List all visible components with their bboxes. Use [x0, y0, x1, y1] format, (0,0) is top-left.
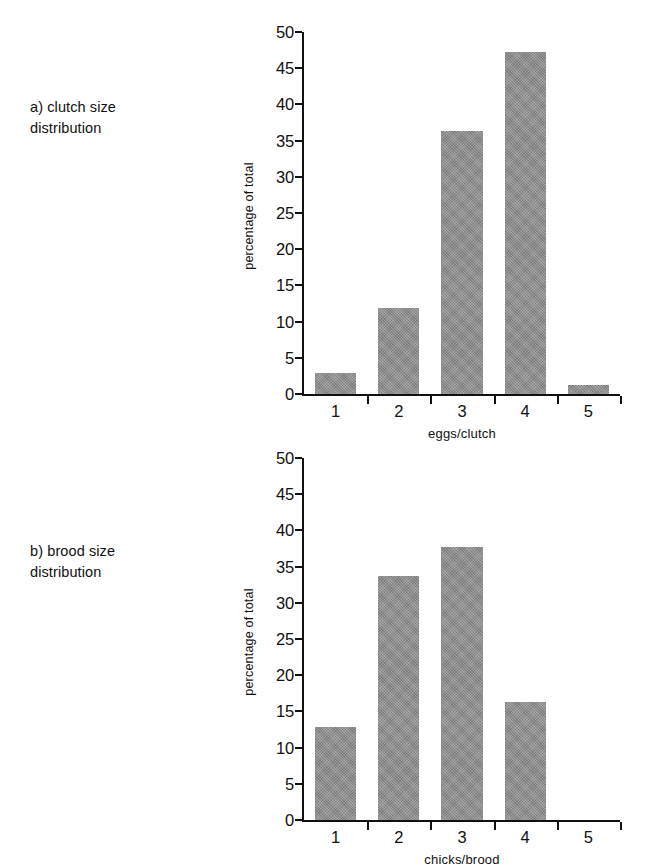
x-tick-label: 5 [584, 829, 593, 846]
y-tick-mark [295, 783, 302, 785]
y-tick-label: 5 [285, 350, 294, 367]
x-axis-title-b: chicks/brood [304, 852, 620, 867]
y-tick-label: 35 [276, 132, 294, 149]
y-tick-label: 40 [276, 522, 294, 539]
y-tick-label: 45 [276, 486, 294, 503]
y-tick-label: 30 [276, 595, 294, 612]
x-tick-mark [620, 822, 622, 830]
y-tick-mark [295, 602, 302, 604]
y-tick-label: 25 [276, 631, 294, 648]
y-tick-label: 30 [276, 169, 294, 186]
bar-2 [378, 576, 419, 820]
y-tick-mark [295, 176, 302, 178]
y-tick-label: 20 [276, 667, 294, 684]
y-tick-mark [295, 212, 302, 214]
x-axis-tick-labels-a: 12345 [304, 403, 620, 427]
y-tick-label: 50 [276, 24, 294, 41]
x-tick-label: 1 [331, 829, 340, 846]
y-tick-label: 5 [285, 776, 294, 793]
y-tick-mark [295, 566, 302, 568]
x-axis-tick-labels-b: 12345 [304, 829, 620, 853]
y-tick-mark [295, 284, 302, 286]
y-tick-mark [295, 457, 302, 459]
y-tick-label: 35 [276, 558, 294, 575]
panel-b-caption: b) brood size distribution [30, 541, 115, 582]
y-tick-mark [295, 710, 302, 712]
bar-1 [315, 727, 356, 820]
y-axis-label-b: percentage of total [242, 454, 256, 830]
y-tick-mark [295, 674, 302, 676]
x-tick-label: 1 [331, 403, 340, 420]
bar-3 [441, 131, 482, 394]
bar-4 [505, 52, 546, 394]
x-tick-label: 4 [521, 829, 530, 846]
x-tick-label: 2 [394, 829, 403, 846]
chart-b-brood-size-distribution: percentage of total 05101520253035404550… [232, 446, 652, 846]
y-tick-label: 15 [276, 277, 294, 294]
y-tick-mark [295, 819, 302, 821]
y-tick-label: 20 [276, 241, 294, 258]
bar-2 [378, 308, 419, 394]
y-tick-mark [295, 248, 302, 250]
y-tick-mark [295, 529, 302, 531]
x-axis-title-a: eggs/clutch [304, 426, 620, 441]
y-tick-label: 15 [276, 703, 294, 720]
bar-3 [441, 547, 482, 820]
plot-area-b: percentage of total 05101520253035404550… [232, 446, 652, 846]
y-tick-mark [295, 67, 302, 69]
y-axis-ticks-b: 05101520253035404550 [256, 446, 302, 822]
y-axis-label-a: percentage of total [242, 28, 256, 404]
y-tick-mark [295, 493, 302, 495]
x-tick-label: 2 [394, 403, 403, 420]
plot-area-a: percentage of total 05101520253035404550… [232, 20, 652, 420]
y-tick-label: 40 [276, 96, 294, 113]
y-tick-label: 25 [276, 205, 294, 222]
x-tick-label: 4 [521, 403, 530, 420]
y-tick-label: 50 [276, 450, 294, 467]
bars-container-b [304, 458, 620, 820]
y-tick-label: 10 [276, 313, 294, 330]
x-tick-label: 3 [457, 403, 466, 420]
bar-5 [568, 385, 609, 394]
y-tick-mark [295, 140, 302, 142]
bars-container-a [304, 32, 620, 394]
y-tick-mark [295, 31, 302, 33]
y-tick-mark [295, 638, 302, 640]
y-axis-ticks-a: 05101520253035404550 [256, 20, 302, 396]
y-tick-mark [295, 103, 302, 105]
x-tick-label: 3 [457, 829, 466, 846]
x-tick-mark [620, 396, 622, 404]
x-tick-label: 5 [584, 403, 593, 420]
y-tick-label: 0 [285, 812, 294, 829]
y-tick-mark [295, 357, 302, 359]
panel-a-caption: a) clutch size distribution [30, 97, 116, 138]
y-tick-mark [295, 393, 302, 395]
y-tick-label: 45 [276, 60, 294, 77]
bar-1 [315, 373, 356, 394]
bar-4 [505, 702, 546, 820]
y-tick-label: 0 [285, 386, 294, 403]
y-tick-mark [295, 321, 302, 323]
chart-a-clutch-size-distribution: percentage of total 05101520253035404550… [232, 20, 652, 420]
y-tick-label: 10 [276, 739, 294, 756]
y-tick-mark [295, 747, 302, 749]
